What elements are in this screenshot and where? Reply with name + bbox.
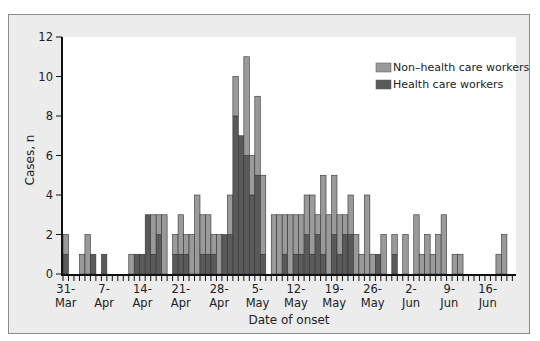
x-tick-label: 21- bbox=[171, 282, 190, 296]
bar-non-hcw bbox=[342, 215, 347, 235]
bar-hcw bbox=[375, 254, 380, 274]
bar-non-hcw bbox=[458, 254, 463, 274]
bar-hcw bbox=[134, 254, 139, 274]
bar-non-hcw bbox=[189, 235, 194, 275]
bar-hcw bbox=[184, 254, 189, 274]
bar-non-hcw bbox=[233, 77, 238, 117]
x-tick-label: Apr bbox=[171, 296, 191, 310]
bar-non-hcw bbox=[173, 235, 178, 255]
bar-non-hcw bbox=[227, 195, 232, 235]
x-tick-label: Apr bbox=[133, 296, 153, 310]
x-tick-label: 9- bbox=[444, 282, 455, 296]
bar-non-hcw bbox=[277, 215, 282, 274]
x-tick-label: 14- bbox=[133, 282, 152, 296]
bar-hcw bbox=[321, 254, 326, 274]
x-tick-label: Apr bbox=[94, 296, 114, 310]
bar-non-hcw bbox=[151, 215, 156, 255]
bar-hcw bbox=[211, 254, 216, 274]
bar-non-hcw bbox=[79, 254, 84, 274]
x-tick-label: May bbox=[322, 296, 346, 310]
y-tick-label: 12 bbox=[38, 30, 53, 44]
bar-non-hcw bbox=[299, 215, 304, 255]
bar-hcw bbox=[260, 254, 265, 274]
bar-non-hcw bbox=[332, 175, 337, 234]
y-tick-label: 0 bbox=[46, 267, 53, 281]
bar-hcw bbox=[90, 254, 95, 274]
bar-non-hcw bbox=[255, 96, 260, 175]
bar-non-hcw bbox=[205, 215, 210, 255]
y-tick-label: 8 bbox=[46, 109, 53, 123]
bar-hcw bbox=[315, 235, 320, 275]
bar-non-hcw bbox=[403, 235, 408, 275]
y-tick-label: 2 bbox=[46, 228, 53, 242]
bar-hcw bbox=[233, 116, 238, 274]
bar-non-hcw bbox=[337, 215, 342, 255]
bar-hcw bbox=[249, 195, 254, 274]
bar-hcw bbox=[392, 254, 397, 274]
y-axis: 024681012 bbox=[38, 30, 62, 281]
bar-hcw bbox=[151, 254, 156, 274]
bar-hcw bbox=[255, 175, 260, 274]
bar-hcw bbox=[348, 235, 353, 275]
bar-non-hcw bbox=[392, 235, 397, 255]
x-tick-label: 16- bbox=[478, 282, 497, 296]
bar-hcw bbox=[63, 254, 68, 274]
bar-non-hcw bbox=[288, 215, 293, 274]
x-tick-label: 31- bbox=[56, 282, 75, 296]
epidemic-curve-chart: 024681012 31-Mar7-Apr14-Apr21-Apr28-Apr5… bbox=[0, 0, 540, 341]
bar-non-hcw bbox=[282, 215, 287, 255]
y-tick-label: 4 bbox=[46, 188, 53, 202]
bar-non-hcw bbox=[321, 175, 326, 254]
x-tick-label: Jun bbox=[439, 296, 458, 310]
x-tick-label: Apr bbox=[209, 296, 229, 310]
bar-non-hcw bbox=[244, 57, 249, 156]
bar-non-hcw bbox=[430, 254, 435, 274]
bar-non-hcw bbox=[216, 235, 221, 275]
bar-hcw bbox=[342, 235, 347, 275]
bar-hcw bbox=[337, 254, 342, 274]
y-axis-title: Cases, n bbox=[23, 135, 37, 186]
legend-label-non-hcw: Non–health care workers bbox=[393, 61, 530, 74]
x-tick-label: 26- bbox=[363, 282, 382, 296]
bar-non-hcw bbox=[419, 254, 424, 274]
bar-non-hcw bbox=[364, 195, 369, 274]
x-tick-label: May bbox=[284, 296, 308, 310]
bar-hcw bbox=[293, 254, 298, 274]
bar-non-hcw bbox=[63, 235, 68, 255]
bar-hcw bbox=[200, 254, 205, 274]
x-tick-label: 12- bbox=[287, 282, 306, 296]
x-tick-label: Mar bbox=[55, 296, 77, 310]
legend-swatch-hcw bbox=[376, 80, 391, 89]
bar-hcw bbox=[140, 254, 145, 274]
bar-non-hcw bbox=[353, 235, 358, 275]
bar-non-hcw bbox=[381, 235, 386, 275]
y-tick-label: 10 bbox=[38, 70, 53, 84]
bar-hcw bbox=[238, 136, 243, 274]
y-tick-label: 6 bbox=[46, 149, 53, 163]
bar-non-hcw bbox=[211, 235, 216, 255]
bar-non-hcw bbox=[452, 254, 457, 274]
bar-non-hcw bbox=[436, 235, 441, 275]
bar-hcw bbox=[244, 156, 249, 275]
x-tick-label: May bbox=[361, 296, 385, 310]
bar-non-hcw bbox=[184, 235, 189, 255]
bar-hcw bbox=[178, 254, 183, 274]
bar-hcw bbox=[101, 254, 106, 274]
legend-label-hcw: Health care workers bbox=[393, 78, 503, 91]
bar-non-hcw bbox=[156, 215, 161, 235]
bar-hcw bbox=[310, 254, 315, 274]
x-tick-label: 7- bbox=[98, 282, 109, 296]
bar-non-hcw bbox=[200, 215, 205, 255]
bar-hcw bbox=[282, 254, 287, 274]
bar-non-hcw bbox=[501, 235, 506, 275]
bar-non-hcw bbox=[85, 235, 90, 275]
bar-non-hcw bbox=[310, 195, 315, 254]
bar-non-hcw bbox=[441, 215, 446, 274]
x-tick-label: 28- bbox=[210, 282, 229, 296]
bar-non-hcw bbox=[496, 254, 501, 274]
bar-non-hcw bbox=[271, 215, 276, 274]
bar-non-hcw bbox=[293, 215, 298, 255]
x-axis-title: Date of onset bbox=[248, 313, 329, 327]
bar-non-hcw bbox=[129, 254, 134, 274]
x-axis: 31-Mar7-Apr14-Apr21-Apr28-Apr5-May12-May… bbox=[55, 275, 516, 310]
